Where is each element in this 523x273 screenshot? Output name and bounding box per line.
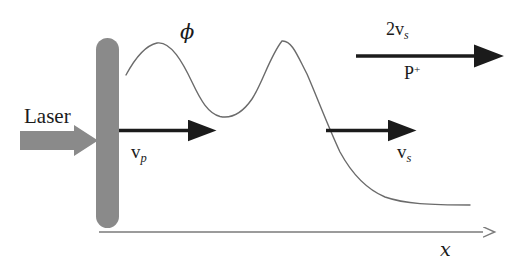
piston-velocity-label: vp [131, 142, 147, 161]
shock-velocity-symbol: v [397, 141, 407, 162]
shock-velocity-subscript: s [407, 151, 412, 165]
proton-velocity-symbol: 2v [386, 19, 404, 39]
diagram-canvas [0, 0, 523, 273]
proton-velocity-subscript: s [404, 28, 409, 42]
proton-species-label: P+ [404, 64, 420, 82]
piston-velocity-subscript: p [141, 151, 147, 165]
target-foil [96, 38, 119, 228]
proton-charge-superscript: + [414, 63, 420, 75]
piston-velocity-symbol: v [131, 141, 141, 162]
proton-velocity-label: 2vs [386, 20, 409, 38]
phi-label: ϕ [180, 22, 194, 43]
proton-symbol: P [404, 63, 414, 83]
shock-velocity-label: vs [397, 142, 411, 161]
laser-label: Laser [24, 106, 71, 127]
laser-shock-diagram: Laser vp ϕ 2vs P+ vs x [0, 0, 523, 273]
x-axis-label: x [440, 240, 451, 259]
laser-block-arrow [20, 125, 98, 156]
